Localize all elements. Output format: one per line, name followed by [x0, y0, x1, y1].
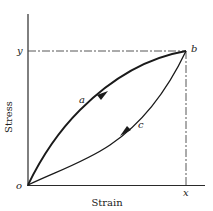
peak-label-b: b [191, 43, 197, 54]
x-marker-label: x [183, 187, 189, 198]
curve-a-label: a [79, 94, 85, 105]
stress-strain-diagram: y b a c o x Strain Stress [0, 0, 213, 211]
curve-c-label: c [138, 119, 144, 130]
origin-label: o [16, 180, 22, 191]
y-axis-label: Stress [3, 101, 14, 133]
x-axis-label: Strain [91, 197, 123, 208]
curve-a [28, 51, 186, 185]
diagram-svg: y b a c o x Strain Stress [0, 0, 213, 211]
curve-c [28, 51, 186, 185]
arrow-c-icon [120, 126, 131, 136]
y-marker-label: y [16, 45, 23, 56]
